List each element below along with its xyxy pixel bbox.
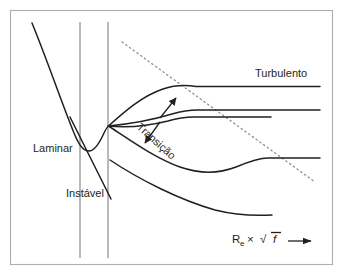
curve-lowest-descending: [110, 160, 272, 215]
axis-label-times: ×: [247, 233, 254, 245]
label-instavel: Instável: [66, 187, 104, 199]
figure-frame: [11, 11, 333, 265]
label-laminar: Laminar: [33, 142, 73, 154]
axis-label-f: f: [273, 233, 278, 245]
curve-laminar: [32, 23, 109, 151]
transition-diagram: Laminar Instável Turbulento Transição R …: [0, 0, 343, 274]
dotted-diagonal-guide: [122, 42, 315, 182]
label-turbulento: Turbulento: [255, 67, 307, 79]
curve-turbulent-upper: [109, 86, 321, 126]
curve-transition-mid-lower: [109, 117, 272, 127]
figure-container: Laminar Instável Turbulento Transição R …: [0, 0, 343, 274]
axis-label-radical: √: [260, 233, 267, 245]
axis-label-r-subscript: e: [240, 239, 245, 248]
